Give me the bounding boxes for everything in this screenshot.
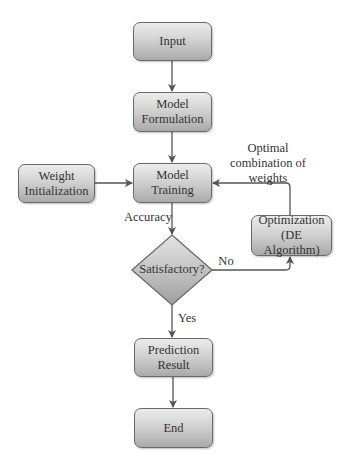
node-model-formulation-line1: Model — [156, 97, 189, 112]
node-model-training-label: Model Training — [134, 168, 211, 198]
edge-label-optimal-line2: combination of — [218, 156, 318, 171]
node-optimization-line2: (DE Algorithm) — [252, 228, 331, 258]
edge-label-optimal-line1: Optimal — [218, 141, 318, 156]
edge-label-optimal-weights: Optimal combination of weights — [218, 141, 318, 186]
node-weight-initialization-line1: Weight — [39, 169, 75, 184]
edge-label-accuracy: Accuracy — [124, 210, 170, 225]
arrow-optimization-to-training — [213, 183, 290, 215]
node-optimization-line1: Optimization — [259, 213, 325, 228]
node-weight-initialization-line2: Initialization — [25, 184, 89, 199]
node-input: Input — [133, 22, 212, 61]
node-input-label: Input — [159, 34, 185, 49]
edge-label-optimal-line3: weights — [218, 171, 318, 186]
node-prediction-result: Prediction Result — [134, 338, 213, 377]
node-end: End — [134, 408, 213, 448]
node-model-formulation: Model Formulation — [133, 92, 212, 132]
node-prediction-result-line1: Prediction — [148, 343, 199, 358]
node-end-label: End — [163, 421, 183, 436]
node-weight-initialization: Weight Initialization — [18, 164, 95, 203]
node-satisfactory-label: Satisfactory? — [132, 262, 212, 277]
node-optimization: Optimization (DE Algorithm) — [251, 215, 332, 256]
node-model-formulation-line2: Formulation — [142, 112, 204, 127]
node-prediction-result-line2: Result — [158, 358, 190, 373]
edge-label-no: No — [216, 254, 236, 269]
edge-label-yes: Yes — [178, 311, 202, 326]
node-model-training: Model Training — [133, 163, 212, 203]
